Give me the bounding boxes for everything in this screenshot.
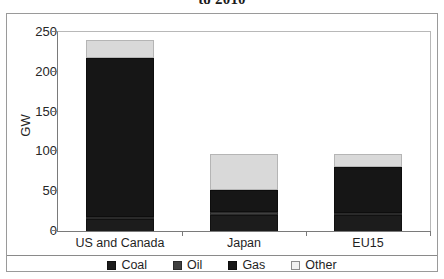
x-axis-label-us-and-canada: US and Canada — [50, 236, 190, 250]
bars-layer — [58, 32, 430, 231]
bar-segment-gas[interactable] — [210, 190, 278, 211]
swatch-other-icon — [291, 261, 300, 270]
chart-plot-wrapper: GW 250200150100500 US and CanadaJapanEU1… — [0, 0, 444, 279]
y-tick-label-250: 250 — [17, 24, 57, 39]
x-tick-mark-3 — [430, 231, 431, 236]
swatch-gas-icon — [228, 261, 237, 270]
y-tick-label-100: 100 — [17, 143, 57, 158]
bar-segment-gas[interactable] — [86, 58, 154, 217]
bar-group-eu15[interactable] — [334, 154, 402, 231]
legend-item-oil[interactable]: Oil — [173, 258, 202, 272]
x-axis-label-eu15: EU15 — [298, 236, 438, 250]
legend-label-oil: Oil — [187, 258, 202, 272]
swatch-oil-icon — [173, 261, 182, 270]
bar-segment-other[interactable] — [334, 154, 402, 167]
y-tick-label-50: 50 — [17, 183, 57, 198]
legend-label-gas: Gas — [242, 258, 265, 272]
y-tick-label-200: 200 — [17, 63, 57, 78]
y-axis: 250200150100500 — [0, 31, 57, 231]
legend-item-coal[interactable]: Coal — [107, 258, 147, 272]
bar-group-us-and-canada[interactable] — [86, 40, 154, 231]
bar-segment-coal[interactable] — [86, 219, 154, 231]
legend-label-coal: Coal — [121, 258, 147, 272]
bar-segment-other[interactable] — [210, 154, 278, 191]
swatch-coal-icon — [107, 261, 116, 270]
legend-item-other[interactable]: Other — [291, 258, 336, 272]
x-axis-label-japan: Japan — [174, 236, 314, 250]
bar-segment-coal[interactable] — [334, 215, 402, 231]
legend-label-other: Other — [305, 258, 336, 272]
bar-segment-gas[interactable] — [334, 167, 402, 213]
legend-item-gas[interactable]: Gas — [228, 258, 265, 272]
bar-group-japan[interactable] — [210, 154, 278, 231]
chart-legend: CoalOilGasOther — [7, 255, 437, 274]
bar-segment-coal[interactable] — [210, 215, 278, 231]
bar-segment-other[interactable] — [86, 40, 154, 58]
y-tick-label-150: 150 — [17, 103, 57, 118]
